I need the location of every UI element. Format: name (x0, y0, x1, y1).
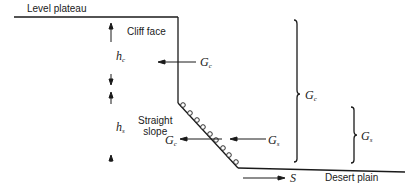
desert-plain-line (238, 168, 405, 172)
gc-slope-symbol: Gc (165, 134, 177, 148)
hs-sub: s (122, 127, 125, 135)
gs-slope-base: G (268, 133, 277, 147)
diagram-canvas (0, 0, 413, 194)
straight-slope-label-line2: slope (143, 126, 167, 137)
gc-brace-symbol: Gc (305, 89, 317, 103)
hc-symbol: hc (116, 50, 125, 64)
gc-cliff-arrow-icon (158, 60, 196, 64)
gc-cliff-sub: c (209, 62, 212, 70)
gs-brace-base: G (361, 129, 370, 143)
straight-slope-label-line1: Straight (138, 115, 172, 126)
hc-dimension-arrows-icon (109, 23, 113, 85)
gc-slope-sub: c (174, 140, 177, 148)
gc-brace-icon (294, 20, 300, 162)
gs-slope-sub: s (277, 140, 280, 148)
s-arrow-icon (243, 176, 285, 180)
cliff-face-label: Cliff face (127, 27, 166, 37)
gc-cliff-symbol: Gc (200, 56, 212, 70)
level-plateau-label: Level plateau (27, 4, 87, 14)
hs-symbol: hs (116, 121, 125, 135)
gs-brace-icon (351, 107, 357, 163)
s-symbol: S (290, 172, 296, 184)
debris-boulders-icon (181, 103, 239, 165)
gc-brace-base: G (305, 88, 314, 102)
gc-brace-sub: c (314, 95, 317, 103)
hc-sub: c (122, 56, 125, 64)
gs-brace-sub: s (370, 136, 373, 144)
hs-dimension-arrows-icon (109, 92, 113, 162)
gs-slope-symbol: Gs (268, 134, 279, 148)
desert-plain-label: Desert plain (325, 173, 378, 183)
gs-slope-arrow-icon (230, 137, 266, 141)
gc-cliff-base: G (200, 55, 209, 69)
gs-brace-symbol: Gs (361, 130, 372, 144)
gc-slope-base: G (165, 133, 174, 147)
